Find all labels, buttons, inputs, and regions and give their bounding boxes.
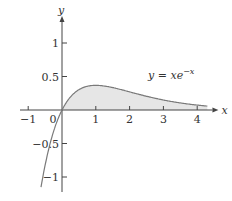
x-tick-label: −1 [20, 113, 36, 126]
y-tick-label: 0.5 [42, 71, 60, 84]
function-label: y = xe−x [147, 67, 195, 82]
x-tick-label: 3 [160, 113, 167, 126]
shaded-region [62, 85, 207, 110]
x-axis-label: x [221, 104, 228, 117]
plot-area: −1123410.5−0.5−10xyy = xe−x [20, 4, 228, 192]
chart: −1123410.5−0.5−10xyy = xe−x [0, 0, 232, 201]
y-tick-label: −1 [43, 171, 59, 184]
y-axis-label: y [57, 4, 65, 17]
function-label-exponent: −x [183, 67, 195, 76]
origin-label: 0 [50, 113, 57, 126]
y-tick-label: −0.5 [32, 138, 59, 151]
x-tick-label: 4 [194, 113, 201, 126]
x-tick-label: 1 [92, 113, 99, 126]
x-axis-arrow-icon [212, 108, 218, 113]
y-tick-label: 1 [52, 37, 59, 50]
x-tick-label: 2 [126, 113, 133, 126]
